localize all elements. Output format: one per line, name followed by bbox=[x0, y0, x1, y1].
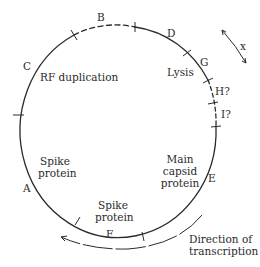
gene-label-B: B bbox=[97, 11, 105, 23]
segment-B-dashed bbox=[74, 25, 135, 35]
gene-label-H: H? bbox=[215, 85, 230, 97]
function-main-capsid-protein: Main capsid protein bbox=[160, 153, 200, 189]
gene-label-D: D bbox=[167, 27, 175, 39]
gene-label-E: E bbox=[208, 172, 216, 184]
gene-label-A: A bbox=[23, 182, 31, 194]
gene-label-F: F bbox=[106, 228, 113, 240]
function-spike-protein-f: Spike protein bbox=[95, 199, 131, 223]
function-lysis: Lysis bbox=[167, 66, 194, 78]
gene-label-C: C bbox=[23, 60, 31, 72]
function-spike-protein-a: Spike protein bbox=[38, 155, 72, 179]
gene-label-I: I? bbox=[221, 108, 231, 120]
transcription-direction-label: Direction of transcription bbox=[189, 233, 251, 257]
function-rf-duplication: RF duplication bbox=[40, 71, 118, 83]
gene-label-G: G bbox=[200, 56, 208, 68]
x-label: x bbox=[240, 40, 246, 52]
circular-genome-map bbox=[0, 0, 260, 267]
